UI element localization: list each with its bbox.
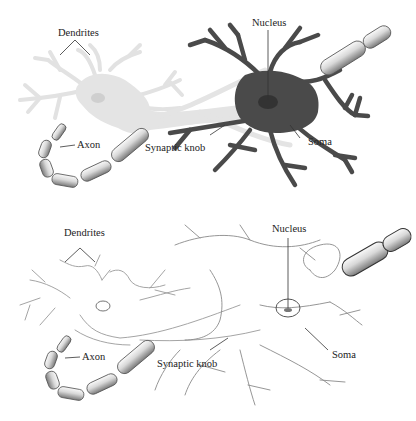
label-nucleus: Nucleus (252, 18, 286, 29)
label-axon: Axon (82, 352, 105, 363)
axon-myelin-sheaths-bottom (43, 334, 157, 401)
right-neuron-outline (155, 225, 362, 405)
left-neuron-nucleus-outline (96, 301, 110, 311)
label-nucleus: Nucleus (272, 224, 306, 235)
label-soma: Soma (332, 350, 356, 361)
shaded-neuron-panel: Dendrites Nucleus Axon Synaptic knob Som… (0, 0, 416, 205)
outline-neuron-panel: Dendrites Nucleus Axon Synaptic knob Som… (0, 210, 416, 421)
axon-myelin-sheaths-right-bottom (339, 226, 414, 280)
label-synaptic-knob: Synaptic knob (145, 143, 205, 154)
axon-myelin-sheaths-top (37, 122, 151, 188)
label-axon: Axon (77, 140, 100, 151)
axon-myelin-sheaths-right (318, 23, 394, 78)
label-synaptic-knob: Synaptic knob (157, 359, 217, 370)
label-soma: Soma (308, 137, 332, 148)
left-neuron-nucleus (91, 93, 105, 103)
left-neuron-outline (20, 255, 260, 345)
outline-neuron-illustration (0, 210, 416, 421)
label-dendrites: Dendrites (64, 228, 105, 239)
label-dendrites: Dendrites (58, 28, 99, 39)
